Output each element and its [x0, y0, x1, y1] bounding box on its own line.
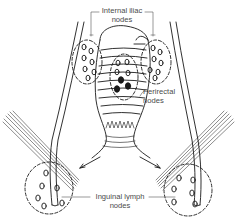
label-line: nodes	[100, 15, 144, 24]
label-line: nodes	[143, 96, 175, 105]
diagram-illustration	[0, 0, 237, 218]
label-inguinal-lymph-nodes: Inguinal lymph nodes	[91, 192, 149, 210]
label-line: Inguinal lymph	[91, 192, 149, 201]
internal-iliac-nodes-left	[72, 40, 102, 84]
label-internal-iliac-nodes: Internal iliac nodes	[100, 6, 144, 24]
drainage-arrows	[80, 157, 160, 168]
left-inguinal-ligament	[3, 111, 79, 190]
inguinal-nodes-right	[164, 164, 212, 216]
label-line: Perirectal	[143, 87, 175, 96]
rectum	[92, 26, 150, 158]
perirectal-nodes	[110, 54, 138, 100]
left-vessel	[50, 22, 84, 206]
label-perirectal-nodes: Perirectal nodes	[143, 87, 175, 105]
lymph-drainage-diagram: Internal iliac nodes Perirectal nodes In…	[0, 0, 237, 218]
label-line: nodes	[91, 201, 149, 210]
label-line: Internal iliac	[100, 6, 144, 15]
right-vessel	[170, 22, 201, 206]
inguinal-nodes-left	[25, 162, 73, 214]
internal-iliac-nodes-right	[141, 40, 171, 84]
